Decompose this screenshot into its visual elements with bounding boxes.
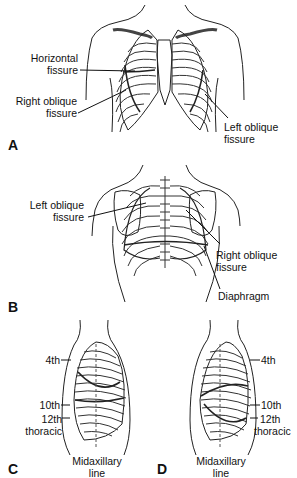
lung-fissures-figure: A Horizontal fissure Right oblique fissu… [0, 0, 297, 478]
midaxillary-line-label-c: Midaxillary line [64, 455, 130, 478]
panel-b-letter: B [8, 300, 18, 314]
rib12-d-line1: 12th [254, 413, 291, 425]
left-oblique-b-line1: Left oblique [22, 199, 84, 211]
right-oblique-line2: fissure [5, 107, 77, 119]
panel-c-drawing [61, 320, 130, 455]
right-oblique-b-line2: fissure [216, 261, 277, 273]
left-oblique-fissure-label-b: Left oblique fissure [22, 199, 84, 223]
midaxillary-line-label-d: Midaxillary line [188, 455, 254, 478]
left-oblique-b-line2: fissure [22, 211, 84, 223]
panel-a-letter: A [8, 138, 18, 152]
horizontal-fissure-line1: Horizontal [20, 52, 78, 64]
horizontal-fissure-label: Horizontal fissure [20, 52, 78, 76]
right-oblique-line1: Right oblique [5, 95, 77, 107]
panel-a-drawing [78, 5, 244, 132]
left-oblique-fissure-label-a: Left oblique fissure [224, 121, 278, 145]
left-oblique-line2: fissure [224, 133, 278, 145]
diaphragm-label: Diaphragm [218, 290, 269, 302]
rib12-c-line1: 12th [20, 413, 62, 425]
right-oblique-fissure-label-b: Right oblique fissure [216, 249, 277, 273]
panel-d-drawing [190, 320, 260, 455]
rib-4th-label-c: 4th [30, 354, 60, 366]
rib-4th-label-d: 4th [261, 354, 276, 366]
panel-d-letter: D [157, 462, 167, 476]
midaxillary-d-line2: line [188, 467, 254, 478]
rib-10th-label-d: 10th [261, 399, 281, 411]
rib-10th-label-c: 10th [30, 399, 60, 411]
rib12-d-line2: thoracic [254, 425, 291, 437]
right-oblique-fissure-label-a: Right oblique fissure [5, 95, 77, 119]
right-oblique-b-line1: Right oblique [216, 249, 277, 261]
midaxillary-c-line2: line [64, 467, 130, 478]
rib-12th-thoracic-label-d: 12th thoracic [254, 413, 291, 437]
rib-12th-thoracic-label-c: 12th thoracic [20, 413, 62, 437]
midaxillary-c-line1: Midaxillary [64, 455, 130, 467]
rib12-c-line2: thoracic [20, 425, 62, 437]
panel-b-drawing [88, 165, 240, 302]
left-oblique-line1: Left oblique [224, 121, 278, 133]
panel-c-letter: C [8, 462, 18, 476]
midaxillary-d-line1: Midaxillary [188, 455, 254, 467]
horizontal-fissure-line2: fissure [20, 64, 78, 76]
